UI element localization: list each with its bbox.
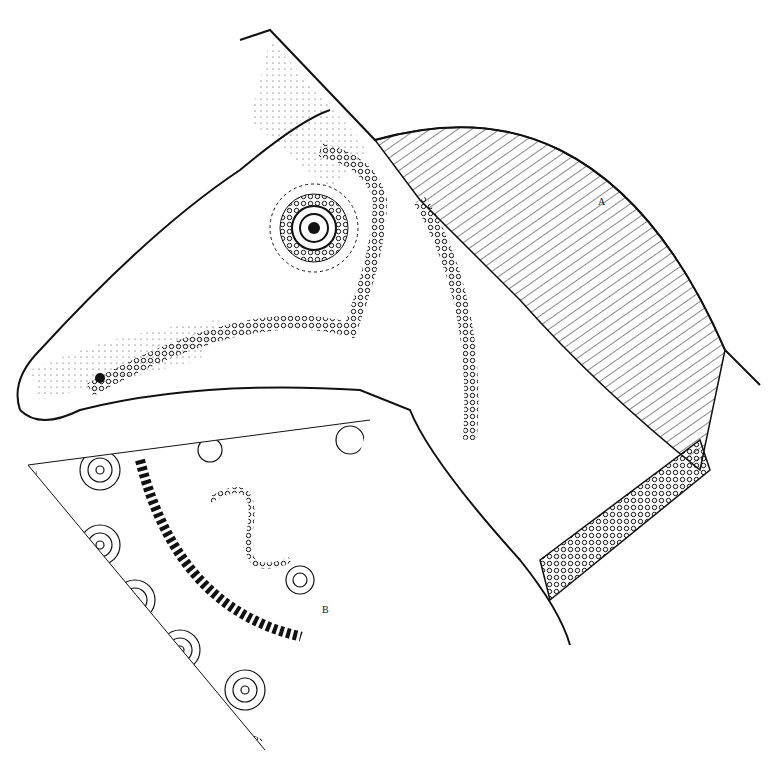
nostril: [95, 373, 105, 383]
horse-head-drawing: [0, 0, 780, 767]
label-b: B: [322, 604, 329, 615]
ornament-fragment-b: [0, 400, 400, 767]
label-a: A: [598, 196, 605, 207]
illustration: A B: [0, 0, 780, 767]
collar-band: [540, 440, 710, 600]
mane: [375, 127, 725, 470]
eye-rosette: [270, 184, 358, 272]
